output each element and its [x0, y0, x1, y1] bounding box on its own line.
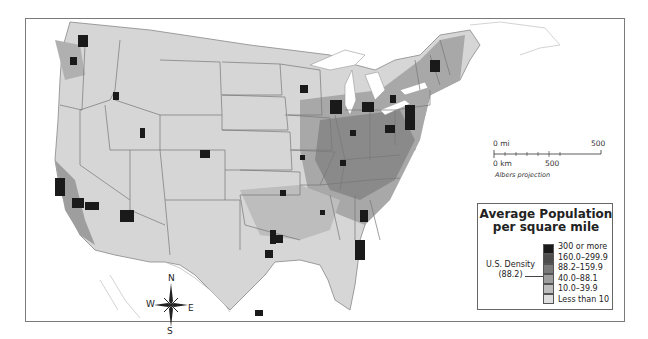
scale-bar: 0 mi 500 0 km 500 Albers projection — [493, 139, 613, 179]
swatch-160-299 — [543, 254, 554, 264]
compass-n: N — [168, 273, 175, 283]
legend: Average Population per square mile 300 o… — [477, 203, 613, 310]
scale-mi-start: 0 mi — [493, 139, 510, 148]
us-density-leader-line — [525, 276, 543, 277]
legend-title: Average Population per square mile — [478, 208, 614, 234]
legend-swatches — [543, 244, 554, 304]
compass-rose: N S W E — [146, 273, 196, 337]
compass-e: E — [188, 303, 194, 313]
swatch-300-plus — [543, 244, 554, 254]
swatch-10-39 — [543, 284, 554, 294]
us-density-callout: U.S. Density (88.2) — [486, 260, 535, 280]
legend-labels: 300 or more 160.0–299.9 88.2–159.9 40.0–… — [558, 242, 609, 305]
swatch-less-10 — [543, 294, 554, 304]
swatch-40-88 — [543, 274, 554, 284]
compass-s: S — [167, 326, 173, 336]
scale-mi-end: 500 — [591, 139, 605, 148]
swatch-88-159 — [543, 264, 554, 274]
scale-km-end: 500 — [545, 159, 559, 168]
projection-label: Albers projection — [495, 171, 550, 179]
compass-w: W — [146, 299, 155, 309]
scale-km-start: 0 km — [493, 159, 512, 168]
